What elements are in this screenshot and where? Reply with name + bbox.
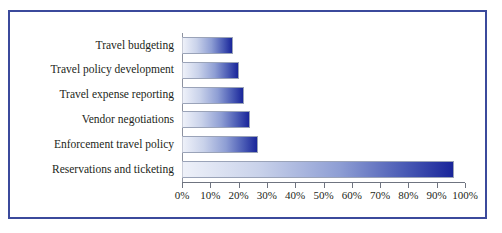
plot-area [182, 33, 465, 182]
chart-frame: Travel budgetingTravel policy developmen… [8, 10, 487, 219]
category-label: Reservations and ticketing [16, 157, 180, 182]
axis-tick-label: 30% [257, 188, 277, 202]
axis-tick-label: 50% [313, 188, 333, 202]
bar[interactable] [182, 87, 244, 104]
bar-row [182, 83, 465, 108]
category-label: Travel budgeting [16, 33, 180, 58]
bar[interactable] [182, 62, 239, 79]
bar-row [182, 107, 465, 132]
bar-row [182, 33, 465, 58]
bar[interactable] [182, 111, 250, 128]
bar[interactable] [182, 136, 258, 153]
bar-row [182, 58, 465, 83]
bar[interactable] [182, 161, 454, 178]
axis-tick-label: 100% [452, 188, 478, 202]
axis-tick-label: 0% [175, 188, 190, 202]
category-label: Travel expense reporting [16, 83, 180, 108]
axis-tick-label: 10% [200, 188, 220, 202]
chart-plot-wrapper: Travel budgetingTravel policy developmen… [10, 12, 485, 217]
bar-series [182, 33, 465, 182]
category-axis-labels: Travel budgetingTravel policy developmen… [16, 33, 180, 182]
axis-tick-label: 40% [285, 188, 305, 202]
axis-tick-label: 70% [370, 188, 390, 202]
bar[interactable] [182, 37, 233, 54]
value-axis-tick-labels: 0%10%20%30%40%50%60%70%80%90%100% [182, 188, 465, 204]
category-label: Vendor negotiations [16, 107, 180, 132]
category-label: Travel policy development [16, 58, 180, 83]
bar-row [182, 157, 465, 182]
axis-tick-label: 80% [398, 188, 418, 202]
bar-row [182, 132, 465, 157]
axis-tick-label: 20% [229, 188, 249, 202]
axis-tick-label: 60% [342, 188, 362, 202]
category-label: Enforcement travel policy [16, 132, 180, 157]
axis-tick-label: 90% [427, 188, 447, 202]
